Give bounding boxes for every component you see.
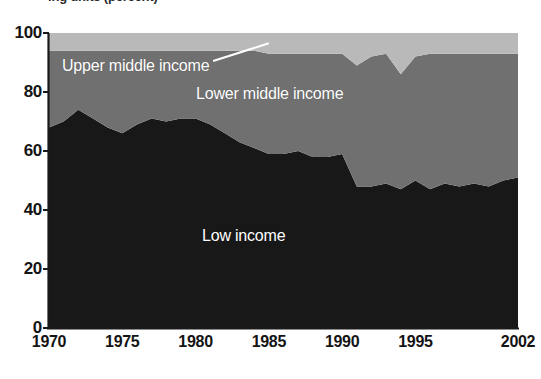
x-axis-labels: 1970197519801985199019952002	[0, 334, 541, 360]
x-axis-tick-label: 1980	[178, 334, 212, 350]
y-axis-labels: 020406080100	[0, 0, 42, 379]
area-layers	[49, 33, 518, 328]
x-axis-tick-label: 1995	[398, 334, 432, 350]
y-axis-tick-label: 60	[2, 142, 42, 159]
x-axis-tick-label: 1970	[32, 334, 66, 350]
series-label-lower-middle-income: Lower middle income	[196, 86, 343, 102]
y-axis-tick-label: 40	[2, 201, 42, 218]
y-axis-tick-label: 100	[2, 24, 42, 41]
stacked-area-chart: ing units (percent) 020406080100 1970197…	[0, 0, 541, 379]
x-axis-tick-label: 1975	[105, 334, 139, 350]
series-label-upper-middle-income: Upper middle income	[62, 58, 209, 74]
y-axis-tick-label: 80	[2, 83, 42, 100]
series-label-low-income: Low income	[202, 228, 285, 244]
y-axis-tick-label: 20	[2, 260, 42, 277]
x-axis-tick-label: 1985	[252, 334, 286, 350]
x-axis-tick-label: 2002	[501, 334, 535, 350]
x-axis-tick-label: 1990	[325, 334, 359, 350]
